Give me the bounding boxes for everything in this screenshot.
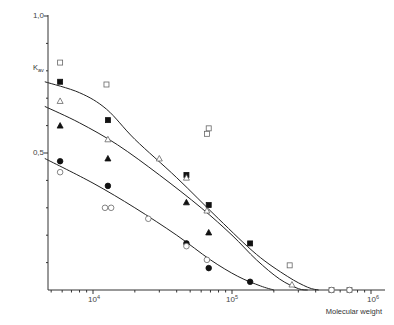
- triangle-open-marker: [156, 155, 162, 161]
- square-open-marker: [58, 60, 63, 65]
- triangle-filled-marker: [206, 229, 212, 235]
- x-tick-label-1e4: 104: [88, 294, 100, 304]
- x-tick-label-1e5: 105: [226, 294, 238, 304]
- circle-filled-marker: [105, 183, 111, 189]
- y-tick-label-0-5: 0,5: [33, 148, 45, 157]
- square-open-marker: [206, 126, 211, 131]
- y-tick-label-1-0: 1,0: [33, 11, 45, 20]
- fit-curve: [45, 82, 319, 290]
- circle-open-marker: [347, 287, 353, 293]
- square-filled-marker: [248, 241, 253, 246]
- circle-open-marker: [146, 216, 152, 222]
- data-points: [57, 60, 352, 293]
- fit-curve: [45, 158, 274, 290]
- square-open-marker: [204, 131, 209, 136]
- kav-vs-molecular-weight-chart: 1,0 0,5 Kav 104 105 106 Molecular weight: [0, 0, 394, 325]
- y-axis-ticks: [44, 16, 48, 263]
- circle-filled-marker: [57, 158, 63, 164]
- square-filled-marker: [105, 118, 110, 123]
- circle-open-marker: [102, 205, 108, 211]
- triangle-open-marker: [289, 282, 295, 288]
- triangle-filled-marker: [105, 155, 111, 161]
- circle-open-marker: [108, 205, 114, 211]
- circle-open-marker: [204, 257, 210, 263]
- axes: [48, 15, 385, 290]
- x-tick-label-1e6: 106: [367, 294, 379, 304]
- circle-open-marker: [57, 169, 63, 175]
- fit-curve: [45, 106, 308, 290]
- x-axis-title: Molecular weight: [326, 307, 383, 316]
- square-open-marker: [287, 263, 292, 268]
- circle-open-marker: [329, 287, 335, 293]
- triangle-filled-marker: [183, 199, 189, 205]
- circle-filled-marker: [206, 265, 212, 271]
- y-axis-title: Kav: [33, 63, 44, 73]
- triangle-filled-marker: [57, 123, 63, 129]
- square-open-marker: [104, 82, 109, 87]
- circle-open-marker: [184, 243, 190, 249]
- triangle-open-marker: [57, 98, 63, 104]
- circle-filled-marker: [247, 279, 253, 285]
- square-filled-marker: [58, 79, 63, 84]
- fit-curves: [45, 82, 319, 290]
